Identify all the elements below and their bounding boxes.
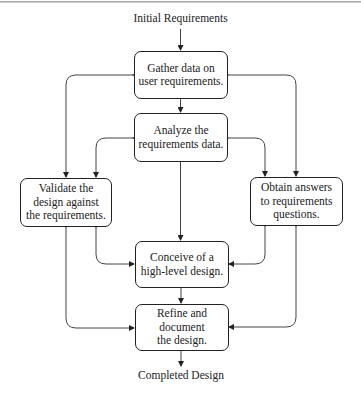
node-validate-design: Validate the design against the requirem…	[20, 178, 112, 227]
node-gather-data: Gather data on user requirements.	[134, 51, 228, 99]
node-obtain-answers: Obtain answers to requirements questions…	[250, 177, 343, 226]
node-conceive-design: Conceive of a high-level design.	[135, 241, 229, 288]
node-analyze-data: Analyze the requirements data.	[134, 113, 228, 162]
node-refine-design: Refine and document the design.	[135, 304, 229, 351]
initial-requirements-label: Initial Requirements	[130, 12, 231, 24]
completed-design-label: Completed Design	[130, 369, 232, 381]
